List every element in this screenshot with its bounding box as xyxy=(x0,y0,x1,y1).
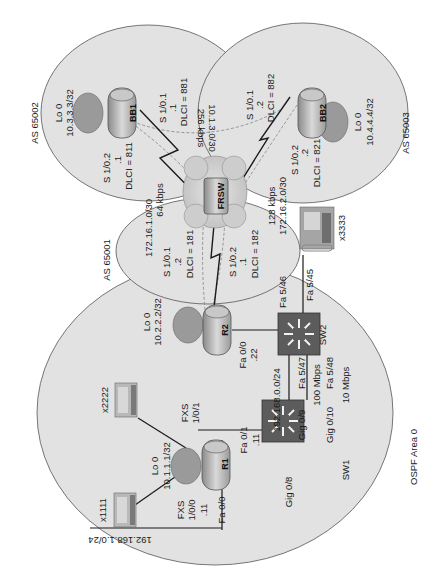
sw2-fa546-iface: Fa 5/46 xyxy=(277,276,288,308)
lan2-subnet: 192.168.1.0/24 xyxy=(88,535,151,546)
label-as65002: AS 65002 xyxy=(29,102,40,144)
r1-name: R1 xyxy=(220,458,230,470)
net-bb1-bb2-speed: 256 kbps xyxy=(196,109,207,148)
bb2-s102-host: .2 xyxy=(299,149,310,157)
sw2-fa547-iface: Fa 5/47 xyxy=(296,357,307,389)
net-r2-bb1-speed: 64 kbps xyxy=(154,183,165,217)
sw2-fa548-iface: Fa 5/48 xyxy=(324,357,335,389)
bb2-lo-label: Lo 0 xyxy=(352,113,363,132)
sw1-gig08-iface: Gig 0/8 xyxy=(283,477,294,508)
r2-s101-host: .2 xyxy=(172,258,183,266)
trunk1-speed: 100 Mbps xyxy=(311,364,322,406)
bb1-s102-host: .1 xyxy=(112,156,123,164)
r1-fa01-iface: Fa 0/1 xyxy=(238,427,249,454)
net-r2-bb2-speed: 128 kbps xyxy=(266,186,277,225)
ipphone-x3333-name: x3333 xyxy=(336,215,347,241)
network-diagram: AS 65002 AS 65003 AS 65001 OSPF Area 0 L… xyxy=(0,0,437,566)
r2-s101-dlci: DLCI = 181 xyxy=(184,230,195,278)
r1-lo-ip: 10.1.1.1/32 xyxy=(161,442,172,490)
bb1-s101-dlci: DLCI = 881 xyxy=(178,78,189,126)
sw2-fa545-iface: Fa 5/45 xyxy=(304,269,315,301)
phone-x1111-icon[interactable] xyxy=(114,493,136,527)
r2-fa00-host: .22 xyxy=(248,348,259,361)
ip-phone-x3333-icon[interactable] xyxy=(300,207,334,251)
bb1-name: BB1 xyxy=(128,104,138,122)
bb1-s101-host: .1 xyxy=(167,104,178,112)
r2-s102-host: .1 xyxy=(237,258,248,266)
r1-fa00-host: .11 xyxy=(198,504,209,517)
r2-fa00-iface: Fa 0/0 xyxy=(237,342,248,369)
r2-loopback-icon xyxy=(173,307,203,343)
r2-lo-ip: 10.2.2.2/32 xyxy=(152,298,163,346)
r2-lo-label: Lo 0 xyxy=(141,313,152,332)
phone-x1111-name: x1111 xyxy=(97,498,108,522)
r2-s102-dlci: DLCI = 182 xyxy=(249,230,260,278)
r1-fxs101-port: 1/0/1 xyxy=(190,402,201,423)
r1-loopback-icon xyxy=(171,448,201,484)
net-r2-bb1-subnet: 172.16.1.0/30 xyxy=(143,199,154,257)
switch-sw2-icon[interactable] xyxy=(278,313,320,355)
r1-fa00-iface: Fa 0/0 xyxy=(216,497,227,524)
lan-subnet: 192.168.0.0/24 xyxy=(271,368,282,431)
bb1-s102-dlci: DLCI = 811 xyxy=(123,142,134,190)
bb2-name: BB2 xyxy=(318,104,328,122)
bb2-s101-dlci: DLCI = 882 xyxy=(265,74,276,122)
r2-name: R2 xyxy=(220,324,230,336)
net-bb1-bb2-subnet: 10.1.3.0/30 xyxy=(207,104,218,152)
net-r2-bb2-subnet: 172.16.2.0/30 xyxy=(277,177,288,235)
bb2-lo-ip: 10.4.4.4/32 xyxy=(364,98,375,146)
label-ospf-area-0: OSPF Area 0 xyxy=(408,429,419,485)
sw1-name: SW1 xyxy=(340,460,351,481)
r1-fa01-host: .11 xyxy=(250,434,261,447)
label-as65001: AS 65001 xyxy=(101,239,112,281)
frsw-name: FRSW xyxy=(216,182,226,209)
r2-s101-iface: S 1/0.1 xyxy=(161,247,172,277)
bb1-lo-ip: 10.3.3.3/32 xyxy=(64,89,75,137)
bb2-s102-dlci: DLCI = 821 xyxy=(311,139,322,187)
sw1-gig010-iface: Gig 0/10 xyxy=(324,407,335,443)
phone-x2222-name: x2222 xyxy=(99,387,110,413)
r1-fxs100-iface: FXS xyxy=(175,501,186,519)
sw1-gig09-iface: Gig 0/9 xyxy=(296,410,307,441)
trunk2-speed: 10 Mbps xyxy=(340,367,351,404)
bb2-s101-host: .2 xyxy=(254,101,265,109)
bb1-loopback-icon xyxy=(73,93,103,133)
label-as65003: AS 65003 xyxy=(400,112,411,154)
bb1-lo-label: Lo 0 xyxy=(53,104,64,123)
r1-lo-label: Lo 0 xyxy=(149,457,160,476)
r1-fxs101-iface: FXS xyxy=(179,404,190,422)
bb1-s102-iface: S 1/0.2 xyxy=(101,153,112,183)
sw2-name: SW2 xyxy=(317,325,328,346)
phone-x2222-icon[interactable] xyxy=(115,383,137,417)
r1-fxs100-port: 1/0/0 xyxy=(186,499,197,520)
